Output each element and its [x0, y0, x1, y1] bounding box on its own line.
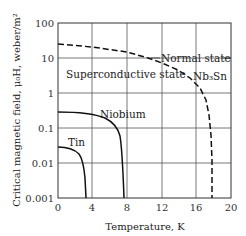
- normal-state-label: Normal state: [161, 52, 231, 64]
- x-tick: 16: [190, 202, 203, 213]
- niobium-curve: [58, 112, 124, 198]
- x-tick: 4: [89, 202, 95, 213]
- niobium-label: Niobium: [100, 108, 146, 120]
- x-tick: 20: [225, 202, 238, 213]
- x-tick: 0: [55, 202, 61, 213]
- x-axis-title: Temperature, K: [105, 221, 185, 232]
- x-axis-ticks: 0 4 8 12 16 20: [55, 202, 238, 213]
- y-tick: 1: [48, 88, 54, 99]
- tin-label: Tin: [68, 136, 85, 148]
- critical-field-chart: 100 10 1 0.1 0.01 0.001 0 4 8 12 16 20 T…: [0, 0, 246, 236]
- y-tick: 10: [41, 53, 54, 64]
- nb3sn-label: Nb₃Sn: [193, 70, 227, 82]
- x-tick: 12: [156, 202, 169, 213]
- y-tick: 0.01: [32, 158, 54, 169]
- tin-curve: [58, 147, 86, 198]
- y-axis-title: Critical magnetic field, μ₀H, weber/m²: [11, 13, 22, 207]
- y-tick: 100: [35, 18, 54, 29]
- y-tick: 0.001: [25, 193, 54, 204]
- superconductive-state-label: Superconductive state: [66, 68, 186, 80]
- y-axis-ticks: 100 10 1 0.1 0.01 0.001: [25, 18, 54, 204]
- x-tick: 8: [124, 202, 130, 213]
- y-tick: 0.1: [38, 123, 54, 134]
